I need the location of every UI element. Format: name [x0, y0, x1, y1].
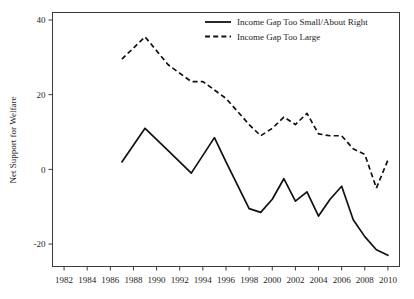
y-tick-label: 40 [37, 15, 47, 25]
x-tick-label: 1984 [78, 275, 97, 285]
line-chart-canvas: 40200-20 1982198419861988199019921994199… [0, 0, 414, 299]
legend-label-1: Income Gap Too Small/About Right [237, 17, 368, 27]
x-tick-label: 1994 [194, 275, 213, 285]
x-tick-label: 1982 [55, 275, 73, 285]
y-tick-label: 20 [37, 90, 47, 100]
y-axis-title: Net Support for Welfare [8, 97, 18, 184]
x-axis-tick-labels: 1982198419861988199019921994199619982000… [55, 275, 397, 285]
x-tick-label: 1986 [101, 275, 120, 285]
y-tick-label: 0 [41, 165, 46, 175]
x-tick-label: 2010 [379, 275, 398, 285]
y-tick-label: -20 [34, 239, 46, 249]
x-tick-label: 2008 [356, 275, 375, 285]
x-tick-label: 1998 [240, 275, 259, 285]
chart-figure: 40200-20 1982198419861988199019921994199… [0, 0, 414, 299]
x-tick-label: 1988 [124, 275, 143, 285]
y-axis-title-label: Net Support for Welfare [8, 97, 18, 184]
x-tick-label: 2002 [286, 275, 304, 285]
x-tick-label: 1996 [217, 275, 236, 285]
x-tick-label: 1990 [148, 275, 167, 285]
x-tick-label: 2000 [263, 275, 282, 285]
x-tick-label: 2004 [310, 275, 329, 285]
legend-label-2: Income Gap Too Large [237, 32, 320, 42]
x-tick-label: 2006 [333, 275, 352, 285]
x-tick-label: 1992 [171, 275, 189, 285]
